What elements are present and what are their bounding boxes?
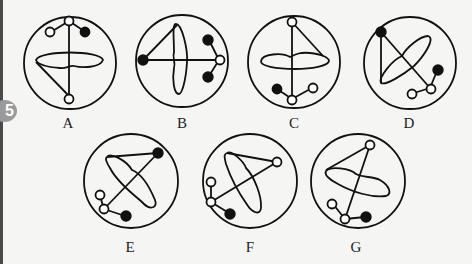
option-f-label: F xyxy=(246,239,254,255)
option-e-figure[interactable] xyxy=(84,134,178,228)
option-g-figure[interactable] xyxy=(311,134,405,228)
option-c-label: C xyxy=(289,115,299,131)
option-c-figure[interactable] xyxy=(248,16,340,108)
option-f-circle xyxy=(203,134,297,228)
option-b-circle xyxy=(136,15,228,107)
option-a-label: A xyxy=(63,115,74,131)
figure-options: A B C xyxy=(0,0,472,264)
option-f-figure[interactable] xyxy=(203,134,297,228)
option-a-figure[interactable] xyxy=(24,17,116,110)
option-b-label: B xyxy=(177,115,187,131)
option-d-figure[interactable] xyxy=(364,17,456,109)
option-g-label: G xyxy=(351,239,362,255)
option-b-figure[interactable] xyxy=(136,15,228,107)
option-d-label: D xyxy=(404,115,415,131)
option-e-label: E xyxy=(125,239,134,255)
